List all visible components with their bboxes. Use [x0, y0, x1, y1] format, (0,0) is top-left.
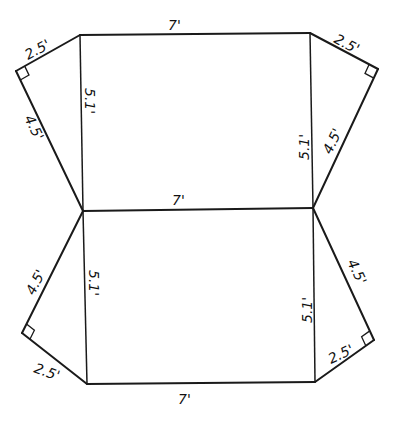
upper-right-inner-edge	[310, 33, 313, 208]
label-lower-right-inner: 5.1'	[299, 297, 315, 323]
middle-edge	[83, 208, 313, 211]
label-lower-left-long-leg: 4.5'	[22, 267, 48, 298]
upper-rectangle	[80, 33, 313, 211]
lower-left-triangle	[22, 211, 87, 384]
label-upper-right-inner: 5.1'	[296, 134, 312, 160]
label-middle-edge: 7'	[172, 192, 185, 208]
label-upper-left-inner: 5.1'	[82, 88, 98, 114]
bottom-edge	[87, 382, 315, 384]
upper-right-triangle	[310, 33, 378, 208]
label-upper-left-long-leg: 4.5'	[21, 112, 47, 142]
label-top-edge: 7'	[168, 17, 181, 33]
upper-left-inner-edge	[80, 35, 83, 211]
upper-right-long-leg	[313, 69, 378, 208]
top-edge	[80, 33, 310, 35]
lower-rectangle	[83, 208, 315, 384]
label-bottom-edge: 7'	[178, 391, 191, 407]
lower-right-inner-edge	[313, 208, 315, 382]
net-diagram: 7' 7' 7' 5.1' 5.1' 5.1' 5.1' 2.5' 4.5' 2…	[0, 0, 395, 430]
lower-left-inner-edge	[83, 211, 87, 384]
upper-left-long-leg	[16, 71, 83, 211]
label-lower-left-inner: 5.1'	[86, 270, 102, 296]
label-lower-left-short-leg: 2.5'	[32, 360, 62, 384]
label-upper-right-long-leg: 4.5'	[319, 126, 345, 156]
